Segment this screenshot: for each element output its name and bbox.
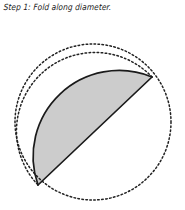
folded-half-fill <box>33 70 152 185</box>
figure-container: Step 1: Fold along diameter. <box>0 0 185 210</box>
fold-diagram <box>0 0 185 210</box>
